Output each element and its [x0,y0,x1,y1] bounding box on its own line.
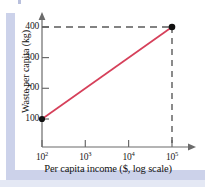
data-point-marker [39,116,45,122]
x-axis-title: Per capita income ($, log scale) [18,163,198,174]
x-tick-base: 10 [79,152,88,162]
x-tick-exponent: 4 [132,150,135,157]
y-axis-title: Waste per capita (kg) [20,7,31,137]
x-tick-base: 10 [36,152,45,162]
x-axis-ticks [42,140,172,147]
x-tick-label: 105 [158,150,186,162]
x-tick-exponent: 3 [88,150,91,157]
x-tick-exponent: 2 [45,150,48,157]
y-axis [39,12,46,147]
x-tick-base: 10 [123,152,132,162]
x-tick-base: 10 [166,152,175,162]
x-tick-label: 104 [115,150,143,162]
chart-figure: 400 300 200 100 102 103 104 105 Waste pe… [0,0,205,187]
x-tick-exponent: 5 [175,150,178,157]
y-axis-ticks [42,27,49,119]
x-tick-label: 102 [28,150,56,162]
data-series-line [42,27,172,119]
x-tick-label: 103 [71,150,99,162]
data-point-marker [169,24,176,31]
